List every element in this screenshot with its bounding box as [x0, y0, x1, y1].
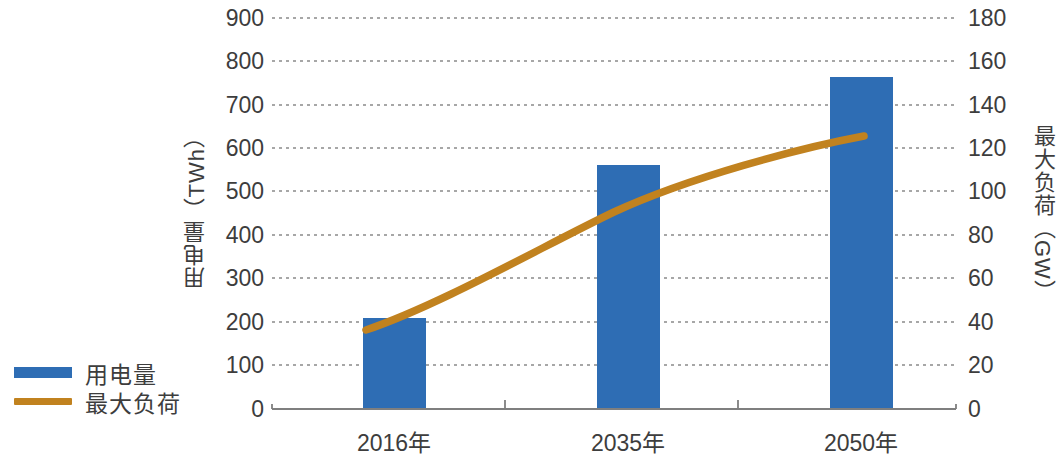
legend-item-label: 最大负荷	[85, 385, 181, 419]
legend: 用电量 最大负荷	[14, 358, 184, 416]
bar[interactable]	[830, 77, 893, 409]
legend-swatch-line-icon	[14, 398, 72, 405]
legend-item-consumption[interactable]: 用电量	[14, 358, 184, 387]
legend-item-peak-load[interactable]: 最大负荷	[14, 387, 184, 416]
bar-series-consumption	[363, 77, 893, 409]
legend-swatch-bar-icon	[14, 367, 72, 378]
